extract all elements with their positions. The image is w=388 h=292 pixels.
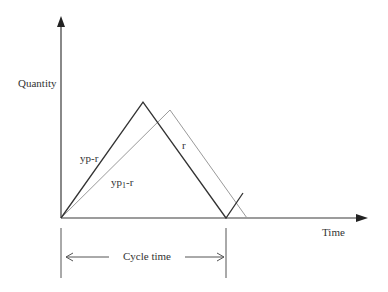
y-axis <box>57 16 65 218</box>
rising-gray-label: yp1-r <box>111 177 133 190</box>
inventory-cycle-diagram: Quantity Time yp-r yp1-r r Cycle time <box>0 0 388 292</box>
rising-gray-label-tail: -r <box>126 176 133 188</box>
x-axis-arrowhead-icon <box>356 214 368 222</box>
y-axis-label: Quantity <box>18 78 57 89</box>
diagram-canvas <box>0 0 388 292</box>
cycle-time-label: Cycle time <box>123 251 171 262</box>
falling-label: r <box>182 140 186 151</box>
y-axis-arrowhead-icon <box>57 16 65 27</box>
gray-inventory-line <box>61 110 247 218</box>
rising-gray-label-main: yp <box>111 176 122 188</box>
x-axis <box>61 214 368 222</box>
rising-dark-label: yp-r <box>80 153 98 164</box>
x-axis-label: Time <box>322 227 345 238</box>
